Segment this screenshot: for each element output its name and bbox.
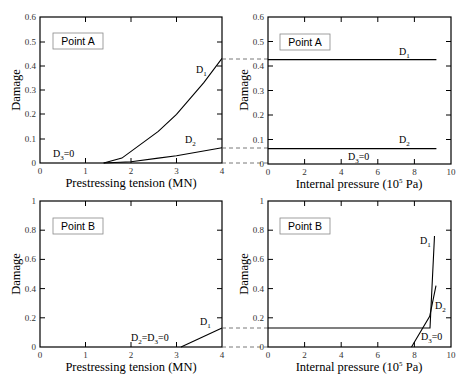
curve-d1 [268,236,435,328]
x-tick: 0 [266,167,271,177]
x-tick: 8 [412,350,417,360]
y-tick: 0.3 [25,85,37,95]
y-axis-title: Damage [9,69,23,111]
y-tick: 0.5 [253,37,265,47]
y-tick: 0.8 [25,225,37,235]
y-tick: 0.3 [253,86,265,96]
x-axis-title: Prestressing tension (MN) [65,176,196,190]
y-tick: 0.4 [253,61,265,71]
y-tick: 0.1 [253,135,264,145]
x-tick: 0 [266,350,271,360]
damage-figure: 0 0.1 0.2 0.3 0.4 0.5 0.6 0 1 2 3 4 Pres… [0,0,462,384]
x-tick: 4 [220,350,225,360]
x-tick: 1 [83,166,88,176]
y-tick: 0.2 [25,109,36,119]
y-tick: 0.4 [25,61,37,71]
y-axis-title: Damage [9,253,23,295]
x-axis-title: Prestressing tension (MN) [65,360,196,374]
label-d2: D2 [435,300,446,314]
x-tick: 1 [83,350,88,360]
y-tick: 0.6 [25,12,37,22]
label-d2-d3: D2=D3=0 [131,332,169,346]
x-tick: 4 [339,350,344,360]
label-d2: D2 [185,134,196,148]
y-tick: 0 [32,158,37,168]
y-axis-title: Damage [237,253,251,295]
label-d3: D3=0 [348,151,369,165]
y-tick: 0.4 [253,284,265,294]
x-tick: 2 [129,350,134,360]
x-tick: 0 [38,166,43,176]
y-tick: 0 [260,159,265,169]
x-tick: 3 [174,350,179,360]
x-tick: 6 [376,350,381,360]
panel-top-left: 0 0.1 0.2 0.3 0.4 0.5 0.6 0 1 2 3 4 Pres… [9,12,225,190]
x-tick: 4 [220,166,225,176]
label-d3: D3=0 [53,148,74,162]
panel-bottom-left: 0 0.2 0.4 0.6 0.8 1 0 1 2 3 4 Prestressi… [9,196,225,374]
x-tick: 2 [302,167,307,177]
y-tick: 0.2 [253,110,264,120]
label-d1: D1 [399,46,410,60]
y-tick: 0.6 [25,254,37,264]
label-d1: D1 [420,235,431,249]
y-tick: 0.2 [25,313,36,323]
y-tick: 1 [32,196,37,206]
point-label: Point A [61,35,94,47]
y-axis-title: Damage [237,69,251,111]
x-tick: 3 [174,166,179,176]
y-tick: 0.5 [25,37,37,47]
y-tick: 0.1 [25,134,36,144]
y-tick: 0.6 [253,254,265,264]
panel-top-right: 0 0.1 0.2 0.3 0.4 0.5 0.6 0 2 4 6 8 10 I… [237,12,456,191]
y-tick: 0.4 [25,284,37,294]
x-tick: 4 [339,167,344,177]
curve-d2 [104,148,222,163]
point-label: Point B [61,220,95,232]
x-tick: 2 [129,166,134,176]
y-tick: 1 [260,196,265,206]
x-tick: 2 [302,350,307,360]
curve-d1 [181,328,222,347]
label-d3: D3=0 [421,331,442,345]
point-label: Point B [288,220,322,232]
x-axis-title: Internal pressure (105 Pa) [296,360,423,374]
label-d1: D1 [200,316,211,330]
y-tick: 0.8 [253,225,265,235]
x-tick: 0 [38,350,43,360]
y-tick: 0.6 [253,12,265,22]
panel-bottom-right: 0 0.2 0.4 0.6 0.8 1 0 2 4 6 8 10 Interna… [237,196,456,374]
x-tick: 8 [412,167,417,177]
x-tick: 6 [376,167,381,177]
x-axis-title: Internal pressure (105 Pa) [296,177,423,191]
label-d1: D1 [196,64,207,78]
y-tick: 0 [32,342,37,352]
label-d2: D2 [399,134,410,148]
y-tick: 0.2 [253,313,264,323]
x-tick: 10 [447,350,457,360]
y-tick: 0 [260,342,265,352]
x-tick: 10 [447,167,457,177]
point-label: Point A [288,36,321,48]
